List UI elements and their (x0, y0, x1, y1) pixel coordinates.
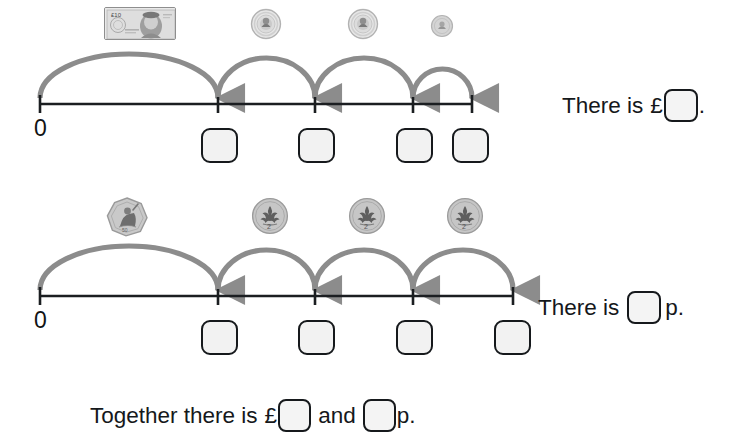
total-sentence-tail: p. (397, 403, 416, 428)
svg-text:2: 2 (364, 223, 368, 230)
pounds-sentence-lead: There is (562, 93, 643, 118)
two-pence-coin-3: 2 (446, 197, 484, 235)
svg-text:£10: £10 (111, 12, 122, 18)
pence-zero-label: 0 (34, 307, 47, 334)
svg-text:50: 50 (122, 227, 128, 233)
one-pound-coin-2 (347, 8, 379, 40)
total-sentence-lead: Together there is (90, 403, 258, 428)
pounds-currency-symbol: £ (643, 93, 663, 118)
pence-answer-box-1[interactable] (201, 320, 238, 355)
pounds-answer-box-2[interactable] (298, 128, 335, 163)
total-sentence-joiner: and (312, 403, 362, 428)
ten-pound-note: £10 (104, 7, 176, 40)
pence-sentence-answer-box[interactable] (627, 291, 661, 324)
svg-text:2: 2 (267, 223, 271, 230)
pence-sentence: There isp. (538, 292, 684, 325)
total-pence-answer-box[interactable] (363, 399, 396, 432)
pence-answer-box-2[interactable] (298, 320, 335, 355)
small-coin (430, 14, 454, 38)
two-pence-coin-1: 2 (251, 197, 289, 235)
pounds-sentence-answer-box[interactable] (664, 89, 698, 122)
pounds-answer-box-1[interactable] (201, 128, 238, 163)
pounds-answer-box-4[interactable] (452, 128, 489, 163)
pounds-sentence-tail: . (699, 93, 705, 118)
total-pounds-answer-box[interactable] (278, 399, 311, 432)
total-currency-symbol: £ (258, 403, 278, 428)
pounds-answer-box-3[interactable] (396, 128, 433, 163)
worksheet-canvas: £10 (0, 0, 745, 437)
one-pound-coin-1 (250, 8, 282, 40)
pence-sentence-tail: p. (665, 295, 684, 320)
pence-answer-box-3[interactable] (396, 320, 433, 355)
fifty-pence-coin: 50 (106, 196, 148, 238)
pounds-sentence: There is£. (562, 90, 705, 123)
total-sentence: Together there is£andp. (90, 400, 415, 433)
pence-sentence-lead: There is (538, 295, 619, 320)
pounds-zero-label: 0 (34, 115, 47, 142)
svg-text:2: 2 (462, 223, 466, 230)
pence-answer-box-4[interactable] (494, 320, 531, 355)
two-pence-coin-2: 2 (348, 197, 386, 235)
